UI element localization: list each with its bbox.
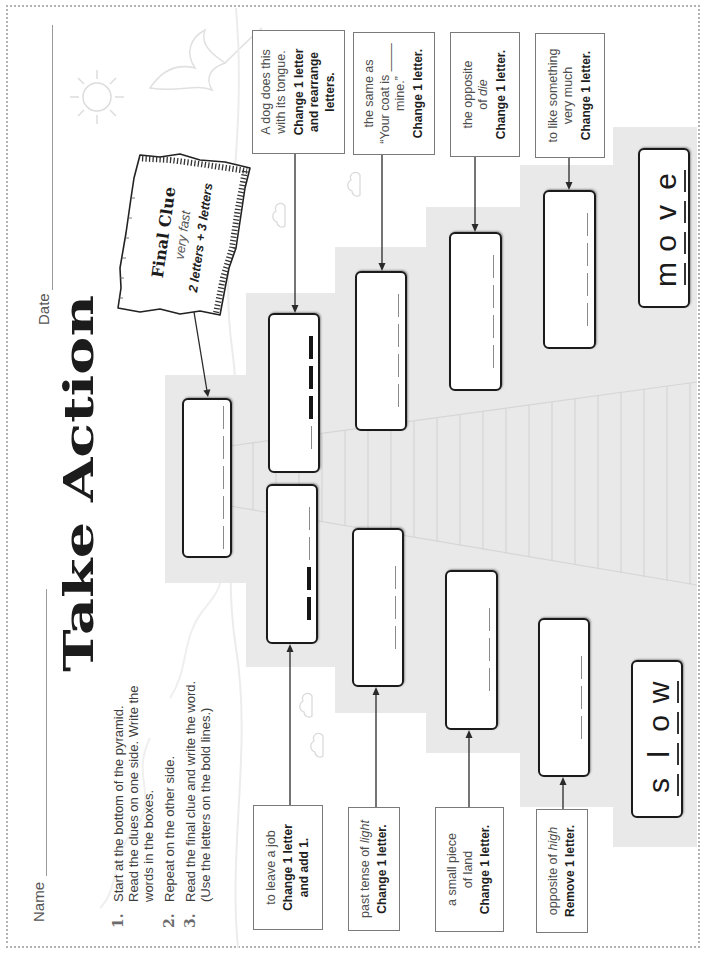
final-clue-scroll xyxy=(0,0,707,968)
worksheet-page: Name Date Take Action 1. Start at the bo… xyxy=(0,0,707,968)
